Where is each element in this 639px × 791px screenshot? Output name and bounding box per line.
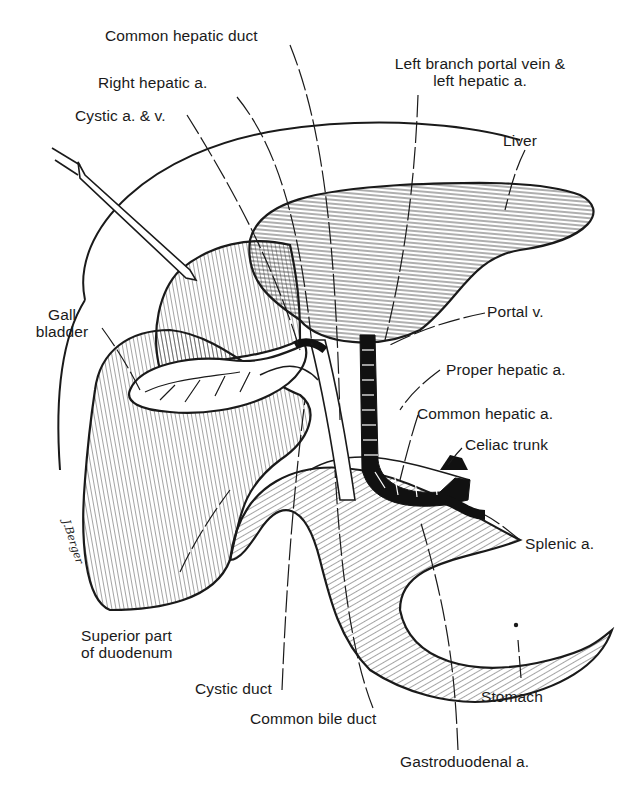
label-splenic-artery: Splenic a. <box>525 535 594 552</box>
label-gall-line1: Gall <box>26 306 98 323</box>
label-liver: Liver <box>503 132 537 149</box>
label-celiac-trunk: Celiac trunk <box>465 436 548 453</box>
label-left-branch-portal-vein: Left branch portal vein & left hepatic a… <box>375 55 585 89</box>
label-right-hepatic-artery: Right hepatic a. <box>98 74 207 91</box>
label-superior-line1: Superior part <box>81 627 173 644</box>
retractor <box>52 148 196 280</box>
stomach-marker-dot <box>514 623 518 627</box>
label-gall-line2: bladder <box>26 323 98 340</box>
label-portal-vein: Portal v. <box>487 303 544 320</box>
label-left-branch-line1: Left branch portal vein & <box>375 55 585 72</box>
label-left-branch-line2: left hepatic a. <box>375 72 585 89</box>
label-superior-line2: of duodenum <box>81 644 173 661</box>
label-common-hepatic-artery: Common hepatic a. <box>417 405 553 422</box>
label-stomach: Stomach <box>481 688 543 705</box>
label-common-hepatic-duct: Common hepatic duct <box>105 27 258 44</box>
label-cystic-duct: Cystic duct <box>195 680 272 697</box>
label-proper-hepatic-artery: Proper hepatic a. <box>446 361 566 378</box>
label-superior-part-duodenum: Superior part of duodenum <box>81 627 173 661</box>
label-cystic-artery-vein: Cystic a. & v. <box>75 107 166 124</box>
label-common-bile-duct: Common bile duct <box>250 710 377 727</box>
label-gastroduodenal-artery: Gastroduodenal a. <box>400 753 529 770</box>
label-gall-bladder: Gall bladder <box>26 306 98 340</box>
